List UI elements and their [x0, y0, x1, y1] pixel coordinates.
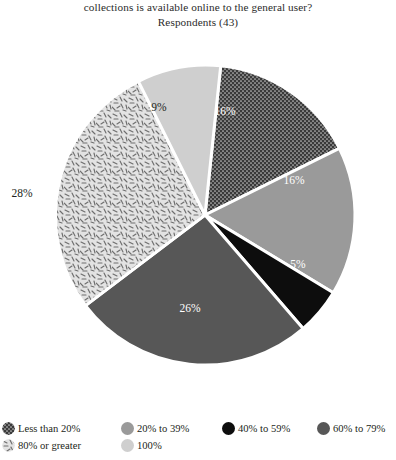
legend-label-40-to-59: 40% to 59% [238, 422, 290, 435]
legend-label-less-than-20: Less than 20% [18, 422, 80, 435]
pie-label-100: 9% [151, 101, 167, 113]
legend-swatch-80-or-greater-icon [2, 439, 15, 452]
chart-title-block: collections is available online to the g… [0, 0, 396, 30]
chart-legend: Less than 20% 20% to 39% 40% to 59% 60% … [0, 420, 396, 460]
chart-title-line-1: collections is available online to the g… [0, 0, 396, 15]
pie-label-20-to-39: 16% [283, 174, 305, 186]
pie-label-60-to-79: 26% [179, 302, 201, 314]
legend-swatch-less-than-20-icon [2, 422, 15, 435]
legend-swatch-20-to-39-icon [121, 422, 134, 435]
pie-label-less-than-20: 16% [214, 105, 236, 117]
pie-label-40-to-59: 5% [290, 258, 306, 270]
legend-swatch-100-icon [121, 439, 134, 452]
legend-label-80-or-greater: 80% or greater [18, 439, 81, 452]
legend-item-100[interactable]: 100% [121, 439, 162, 452]
pie-chart-svg: 16% 16% 5% 26% 28% 9% [0, 32, 396, 410]
legend-swatch-60-to-79-icon [317, 422, 330, 435]
pie-label-80-or-greater: 28% [11, 187, 33, 199]
legend-item-80-or-greater[interactable]: 80% or greater [2, 439, 81, 452]
legend-label-100: 100% [137, 439, 162, 452]
legend-label-60-to-79: 60% to 79% [333, 422, 385, 435]
legend-label-20-to-39: 20% to 39% [137, 422, 189, 435]
legend-swatch-40-to-59-icon [222, 422, 235, 435]
legend-item-less-than-20[interactable]: Less than 20% [2, 422, 80, 435]
legend-item-60-to-79[interactable]: 60% to 79% [317, 422, 385, 435]
chart-subtitle-respondents: Respondents (43) [0, 15, 396, 30]
legend-item-20-to-39[interactable]: 20% to 39% [121, 422, 189, 435]
pie-chart-area: 16% 16% 5% 26% 28% 9% [0, 32, 396, 410]
legend-item-40-to-59[interactable]: 40% to 59% [222, 422, 290, 435]
